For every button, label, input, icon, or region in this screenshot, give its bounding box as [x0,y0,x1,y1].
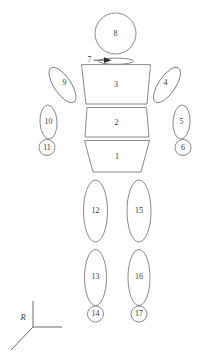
neck-ellipse [99,58,134,64]
segment-left-thigh[interactable]: 12 [84,180,108,242]
segment-label-pelvis: 1 [115,152,119,161]
segment-left-upper-arm[interactable]: 9 [44,63,81,106]
segment-label-right-upper-arm: 4 [164,78,168,87]
segment-label-right-foot: 17 [135,309,143,318]
segment-left-forearm[interactable]: 10 [39,105,58,140]
segment-left-hand[interactable]: 11 [39,140,55,156]
segment-label-left-thigh: 12 [92,206,100,215]
segment-label-thorax: 3 [114,80,118,89]
segment-label-right-hand: 6 [181,143,185,152]
reference-frame-axes: R [11,301,62,350]
segment-right-upper-arm[interactable]: 4 [148,63,185,106]
segment-head[interactable]: 8 [95,13,136,54]
body-segment-figure: 8 7 3 2 1 9 [0,0,202,362]
segment-label-right-forearm: 5 [180,117,184,126]
axis-diagonal-down-left [11,327,33,350]
segment-right-foot[interactable]: 17 [131,306,147,322]
segment-label-head: 8 [114,29,118,38]
segment-neck[interactable] [99,58,134,64]
segment-right-forearm[interactable]: 5 [172,105,191,140]
segment-left-foot[interactable]: 14 [88,306,104,322]
segment-right-hand[interactable]: 6 [175,140,191,156]
segment-left-shank[interactable]: 13 [85,250,107,306]
reference-frame-label: R [19,312,26,322]
neck-callout-label: 7 [88,55,92,64]
segment-label-left-upper-arm: 9 [63,78,67,87]
segment-label-right-thigh: 15 [135,206,143,215]
segment-label-right-shank: 16 [135,272,143,281]
segment-right-shank[interactable]: 16 [128,250,150,306]
body-diagram-canvas: 8 7 3 2 1 9 [0,0,202,362]
segment-label-left-hand: 11 [43,143,51,152]
segment-label-abdomen: 2 [115,118,119,127]
segment-pelvis[interactable]: 1 [85,141,150,173]
segment-thorax[interactable]: 3 [82,65,151,104]
segment-abdomen[interactable]: 2 [85,108,149,138]
segment-right-thigh[interactable]: 15 [127,180,151,242]
segment-label-left-shank: 13 [92,272,100,281]
segment-label-left-foot: 14 [92,309,100,318]
segment-label-left-forearm: 10 [45,117,53,126]
